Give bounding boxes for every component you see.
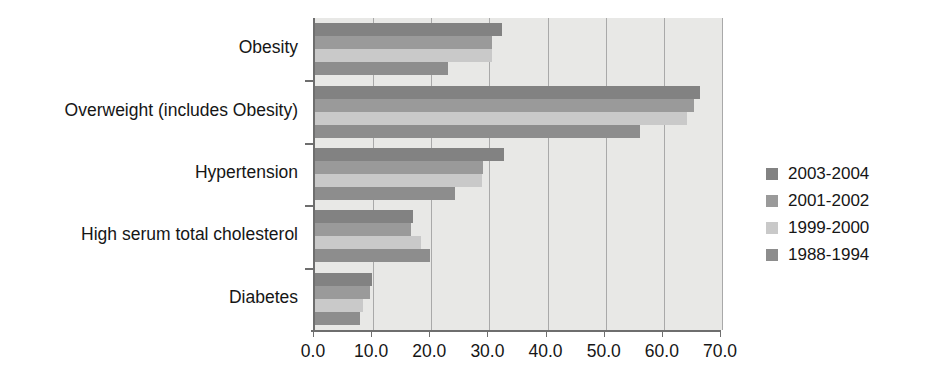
x-axis-tick <box>604 330 605 337</box>
y-axis-tick <box>305 205 313 207</box>
plot-area <box>313 18 722 330</box>
x-axis-line <box>311 330 720 332</box>
legend-swatch-icon <box>766 249 778 261</box>
bar <box>315 23 502 36</box>
bar <box>315 161 483 174</box>
bar <box>315 286 370 299</box>
legend-swatch-icon <box>766 195 778 207</box>
legend-label: 1999-2000 <box>788 218 869 238</box>
bar <box>315 86 700 99</box>
bar-group <box>315 18 722 80</box>
legend-label: 2001-2002 <box>788 191 869 211</box>
x-axis-tick-label: 70.0 <box>685 341 755 362</box>
bar <box>315 49 492 62</box>
bar-group <box>315 143 722 205</box>
bar <box>315 112 687 125</box>
bar <box>315 187 455 200</box>
bar <box>315 174 482 187</box>
y-axis-tick <box>305 143 313 145</box>
gridline <box>722 18 723 330</box>
y-axis-tick <box>305 268 313 270</box>
bar <box>315 223 411 236</box>
legend-swatch-icon <box>766 168 778 180</box>
x-axis-tick <box>720 330 721 337</box>
legend-label: 2003-2004 <box>788 164 869 184</box>
y-axis-tick <box>305 80 313 82</box>
bar <box>315 62 448 75</box>
category-label: High serum total cholesterol <box>0 225 298 244</box>
x-axis-tick <box>487 330 488 337</box>
bar <box>315 36 492 49</box>
x-axis-tick <box>429 330 430 337</box>
legend-swatch-icon <box>766 222 778 234</box>
bar-group <box>315 205 722 267</box>
bar-chart-figure: ObesityOverweight (includes Obesity)Hype… <box>0 0 933 390</box>
bar <box>315 273 372 286</box>
legend-item: 1999-2000 <box>766 214 926 241</box>
bar <box>315 125 640 138</box>
category-label: Diabetes <box>0 288 298 307</box>
x-axis-tick <box>546 330 547 337</box>
bar <box>315 148 504 161</box>
bar <box>315 236 421 249</box>
x-axis-tick <box>371 330 372 337</box>
x-axis-tick <box>662 330 663 337</box>
bar <box>315 312 360 325</box>
bar <box>315 299 363 312</box>
bar-group <box>315 80 722 142</box>
bar <box>315 249 430 262</box>
chart-legend: 2003-20042001-20021999-20001988-1994 <box>766 160 926 268</box>
category-label: Overweight (includes Obesity) <box>0 101 298 120</box>
bar <box>315 99 694 112</box>
legend-item: 2001-2002 <box>766 187 926 214</box>
bar <box>315 210 413 223</box>
x-axis-tick <box>313 330 314 337</box>
bar-group <box>315 268 722 330</box>
legend-item: 1988-1994 <box>766 241 926 268</box>
legend-label: 1988-1994 <box>788 245 869 265</box>
category-label: Obesity <box>0 38 298 57</box>
legend-item: 2003-2004 <box>766 160 926 187</box>
category-axis: ObesityOverweight (includes Obesity)Hype… <box>0 18 306 330</box>
category-label: Hypertension <box>0 163 298 182</box>
